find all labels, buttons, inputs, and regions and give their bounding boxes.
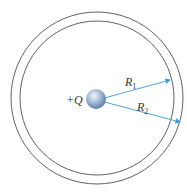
- charge-sphere: [86, 89, 106, 109]
- charge-label: +Q: [66, 93, 83, 107]
- radius1-label: R1: [124, 75, 136, 91]
- spherical-shell-diagram: +Q R1 R2: [0, 0, 187, 195]
- radius2-label: R2: [136, 100, 148, 116]
